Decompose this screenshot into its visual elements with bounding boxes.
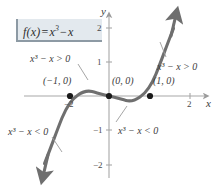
point-label-origin: (0, 0) <box>112 75 134 86</box>
y-tick-label-2: 2 <box>97 23 102 33</box>
point-label-pos-one: (1, 0) <box>153 75 175 86</box>
curve-arrow-top <box>171 19 175 36</box>
x-tick-label-neg-2: −2 <box>64 99 74 109</box>
x-tick-label-2: 2 <box>187 99 192 109</box>
y-axis-label: y <box>101 6 106 17</box>
leader-left-positive <box>78 64 88 80</box>
annotation-mid-negative: x³ − x < 0 <box>118 125 158 136</box>
leader-mid-negative <box>116 106 127 122</box>
curve-arrow-bottom <box>44 155 48 172</box>
formula-text: f(x)=x3−x <box>23 24 74 40</box>
function-graph-figure: f(x)=x3−x y x 2 1 −1 −2 −2 2 (−1, 0) (0,… <box>0 0 221 191</box>
formula-fn: f(x) <box>23 25 40 39</box>
point-marker-origin <box>106 93 112 99</box>
formula-term: x <box>68 25 74 39</box>
annotation-left-positive: x³ − x > 0 <box>30 53 70 64</box>
y-tick-label-neg-1: −1 <box>93 125 103 135</box>
x-axis-label: x <box>206 98 211 109</box>
point-label-neg-one: (−1, 0) <box>43 75 71 86</box>
annotation-right-positive: x³ − x > 0 <box>157 61 197 72</box>
formula-minus: − <box>59 25 68 39</box>
annotation-left-negative: x³ − x < 0 <box>8 126 48 137</box>
y-tick-label-1: 1 <box>97 57 102 67</box>
y-tick-label-neg-2: −2 <box>93 160 103 170</box>
point-marker-pos-one <box>147 93 153 99</box>
